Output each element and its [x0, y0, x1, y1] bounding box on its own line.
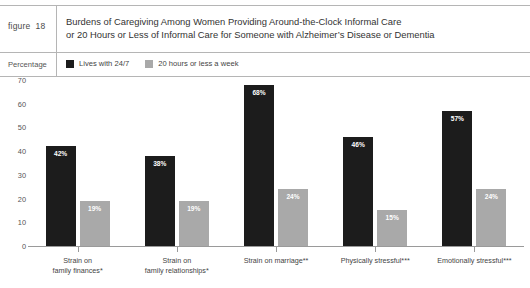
- x-axis-category-label: Strain onfamily relationships*: [122, 256, 232, 276]
- x-axis-tick: [177, 247, 178, 252]
- bar-series-1[interactable]: 42%: [46, 146, 76, 246]
- bar-group: 46%15%: [343, 80, 407, 246]
- bar-groups: 42%19%Strain onfamily finances*38%19%Str…: [28, 80, 524, 246]
- y-axis-tick-label: 70: [18, 76, 26, 85]
- figure-label: figure18: [8, 21, 45, 31]
- bar-group: 68%24%: [244, 80, 308, 246]
- x-axis-category-label: Physically stressful***: [320, 256, 430, 266]
- x-axis-category-line: Emotionally stressful***: [419, 256, 529, 266]
- figure-title-line1: Burdens of Caregiving Among Women Provid…: [66, 15, 518, 28]
- y-axis-caption: Percentage: [8, 60, 47, 69]
- x-axis-category-label: Emotionally stressful***: [419, 256, 529, 266]
- chart-plot-area: 010203040506070 42%19%Strain onfamily fi…: [0, 80, 530, 288]
- bar-series-2[interactable]: 15%: [377, 210, 407, 246]
- y-axis-tick-label: 20: [18, 194, 26, 203]
- bar-value-label: 46%: [343, 141, 373, 148]
- bar-group: 42%19%: [46, 80, 110, 246]
- bar-group: 57%24%: [442, 80, 506, 246]
- header-divider: [56, 6, 57, 52]
- bar-value-label: 68%: [244, 89, 274, 96]
- legend-divider: [56, 53, 57, 76]
- bar-series-2[interactable]: 24%: [278, 189, 308, 246]
- bar-series-1[interactable]: 46%: [343, 137, 373, 246]
- bar-value-label: 42%: [46, 150, 76, 157]
- bar-value-label: 24%: [278, 193, 308, 200]
- y-axis-tick-label: 40: [18, 147, 26, 156]
- x-axis-tick: [474, 247, 475, 252]
- figure-label-text: figure: [8, 21, 30, 31]
- y-axis-tick-label: 30: [18, 170, 26, 179]
- x-axis-tick: [78, 247, 79, 252]
- bar-series-2[interactable]: 19%: [80, 201, 110, 246]
- bar-value-label: 15%: [377, 214, 407, 221]
- x-axis-category-line: family relationships*: [122, 266, 232, 276]
- x-axis-category-line: Strain on: [122, 256, 232, 266]
- figure-number: 18: [35, 21, 45, 31]
- legend-label-series-2: 20 hours or less a week: [158, 59, 238, 68]
- figure-title: Burdens of Caregiving Among Women Provid…: [66, 15, 518, 41]
- x-axis-tick: [375, 247, 376, 252]
- x-axis-category-line: family finances*: [23, 266, 133, 276]
- y-axis-tick-label: 50: [18, 123, 26, 132]
- legend-item-series-1[interactable]: Lives with 24/7: [66, 59, 129, 68]
- legend-band: Percentage Lives with 24/7 20 hours or l…: [0, 53, 530, 76]
- bar-value-label: 19%: [80, 205, 110, 212]
- bar-series-1[interactable]: 38%: [145, 156, 175, 246]
- x-axis-tick: [276, 247, 277, 252]
- bar-series-1[interactable]: 57%: [442, 111, 472, 246]
- legend-item-series-2[interactable]: 20 hours or less a week: [145, 59, 238, 68]
- bar-series-2[interactable]: 24%: [476, 189, 506, 246]
- y-axis-tick-label: 10: [18, 218, 26, 227]
- bar-value-label: 24%: [476, 193, 506, 200]
- x-axis-category-line: Strain on: [23, 256, 133, 266]
- y-axis-tick-label: 60: [18, 99, 26, 108]
- bar-value-label: 57%: [442, 115, 472, 122]
- x-axis-category-label: Strain onfamily finances*: [23, 256, 133, 276]
- legend-swatch-icon-series-2: [145, 60, 153, 68]
- bar-group: 38%19%: [145, 80, 209, 246]
- legend-swatch-icon-series-1: [66, 60, 74, 68]
- figure-header: figure18 Burdens of Caregiving Among Wom…: [0, 6, 530, 52]
- bar-series-1[interactable]: 68%: [244, 85, 274, 246]
- x-axis-category-line: Strain on marriage**: [221, 256, 331, 266]
- x-axis-category-line: Physically stressful***: [320, 256, 430, 266]
- x-axis-category-label: Strain on marriage**: [221, 256, 331, 266]
- chart-legend: Lives with 24/7 20 hours or less a week: [66, 59, 254, 68]
- legend-label-series-1: Lives with 24/7: [79, 59, 129, 68]
- bar-value-label: 19%: [179, 205, 209, 212]
- figure-title-line2: or 20 Hours or Less of Informal Care for…: [66, 28, 518, 41]
- y-axis-tick-label: 0: [22, 242, 26, 251]
- bar-series-2[interactable]: 19%: [179, 201, 209, 246]
- bar-value-label: 38%: [145, 160, 175, 167]
- legend-rule: [0, 76, 530, 77]
